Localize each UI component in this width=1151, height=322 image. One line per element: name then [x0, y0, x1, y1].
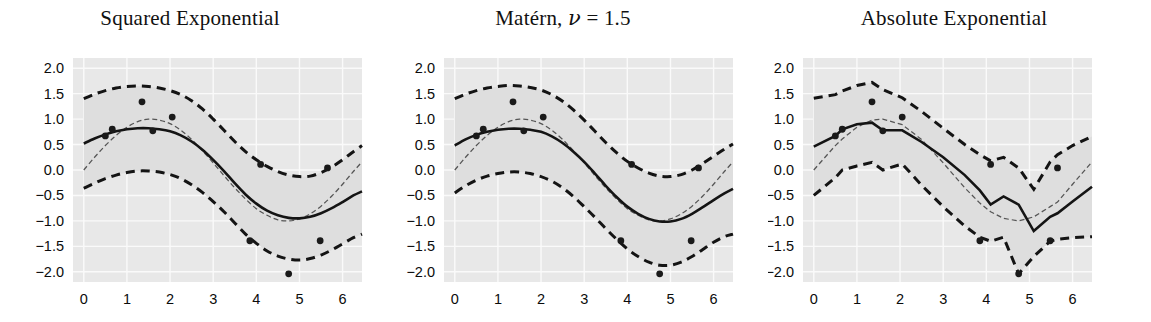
data-point — [317, 237, 324, 244]
y-tick-label: 1.5 — [44, 86, 64, 102]
data-point — [285, 270, 292, 277]
data-point — [473, 132, 480, 139]
x-tick-label: 4 — [252, 291, 260, 307]
data-point — [617, 237, 624, 244]
data-point — [976, 237, 983, 244]
y-tick-label: 0.0 — [44, 162, 64, 178]
data-point — [102, 132, 109, 139]
x-tick-label: 6 — [339, 291, 347, 307]
data-point — [139, 98, 146, 105]
data-point — [839, 126, 846, 133]
data-point — [688, 237, 695, 244]
x-tick-label: 5 — [295, 291, 303, 307]
y-tick-label: −2.0 — [768, 264, 794, 280]
x-tick-label: 2 — [537, 291, 545, 307]
data-point — [480, 126, 487, 133]
x-tick-label: 3 — [209, 291, 217, 307]
x-tick-label: 6 — [710, 291, 718, 307]
plot-canvas-0: 2.01.51.00.50.0−0.5−1.0−1.5−2.00123456 — [0, 0, 384, 322]
x-tick-label: 3 — [939, 291, 947, 307]
data-point — [169, 114, 176, 121]
y-tick-label: −1.0 — [35, 213, 64, 229]
x-tick-label: 2 — [896, 291, 904, 307]
x-tick-label: 1 — [123, 291, 131, 307]
plot-canvas-2: 2.01.51.00.50.0−0.5−1.0−1.5−2.00123456 — [768, 0, 1151, 322]
x-tick-label: 0 — [80, 291, 88, 307]
x-tick-label: 5 — [666, 291, 674, 307]
data-point — [879, 127, 886, 134]
y-tick-label: −2.0 — [35, 264, 64, 280]
figure-root: Squared Exponential 2.01.51.00.50.0−0.5−… — [0, 0, 1151, 322]
data-point — [899, 114, 906, 121]
x-tick-label: 0 — [451, 291, 459, 307]
y-tick-label: 2.0 — [44, 60, 64, 76]
y-tick-label: 0.0 — [415, 162, 435, 178]
y-tick-label: −1.0 — [406, 213, 435, 229]
y-tick-label: 1.5 — [774, 86, 794, 102]
data-point — [832, 132, 839, 139]
data-point — [656, 270, 663, 277]
y-tick-label: 0.5 — [415, 137, 435, 153]
x-tick-label: 1 — [853, 291, 861, 307]
y-tick-label: 0.0 — [774, 162, 794, 178]
x-tick-label: 3 — [580, 291, 588, 307]
y-tick-label: 2.0 — [415, 60, 435, 76]
panel-absolute-exponential: Absolute Exponential 2.01.51.00.50.0−0.5… — [768, 0, 1151, 322]
y-tick-label: 0.5 — [774, 137, 794, 153]
data-point — [1047, 237, 1054, 244]
data-point — [540, 114, 547, 121]
data-point — [987, 161, 994, 168]
y-tick-label: −1.0 — [768, 213, 794, 229]
data-point — [257, 161, 264, 168]
data-point — [520, 127, 527, 134]
x-tick-label: 2 — [166, 291, 174, 307]
panel-matern: Matérn, ν = 1.5 2.01.51.00.50.0−0.5−1.0−… — [384, 0, 768, 322]
y-tick-label: −0.5 — [768, 187, 794, 203]
data-point — [1054, 165, 1061, 172]
data-point — [109, 126, 116, 133]
plot-canvas-1: 2.01.51.00.50.0−0.5−1.0−1.5−2.00123456 — [384, 0, 768, 322]
y-tick-label: −1.5 — [35, 238, 64, 254]
y-tick-label: 1.5 — [415, 86, 435, 102]
data-point — [324, 165, 331, 172]
data-point — [149, 127, 156, 134]
x-tick-label: 4 — [623, 291, 631, 307]
x-tick-label: 1 — [494, 291, 502, 307]
y-tick-label: −0.5 — [406, 187, 435, 203]
y-tick-label: 1.0 — [774, 111, 794, 127]
y-tick-label: −1.5 — [406, 238, 435, 254]
x-tick-label: 0 — [810, 291, 818, 307]
y-tick-label: −1.5 — [768, 238, 794, 254]
y-tick-label: 1.0 — [44, 111, 64, 127]
y-tick-label: −0.5 — [35, 187, 64, 203]
data-point — [510, 98, 517, 105]
y-tick-label: 0.5 — [44, 137, 64, 153]
panel-squared-exponential: Squared Exponential 2.01.51.00.50.0−0.5−… — [0, 0, 384, 322]
y-tick-label: −2.0 — [406, 264, 435, 280]
data-point — [1015, 270, 1022, 277]
y-tick-label: 1.0 — [415, 111, 435, 127]
x-tick-label: 5 — [1025, 291, 1033, 307]
data-point — [628, 161, 635, 168]
x-tick-label: 6 — [1069, 291, 1077, 307]
y-tick-label: 2.0 — [774, 60, 794, 76]
data-point — [869, 98, 876, 105]
data-point — [695, 165, 702, 172]
data-point — [246, 237, 253, 244]
x-tick-label: 4 — [982, 291, 990, 307]
